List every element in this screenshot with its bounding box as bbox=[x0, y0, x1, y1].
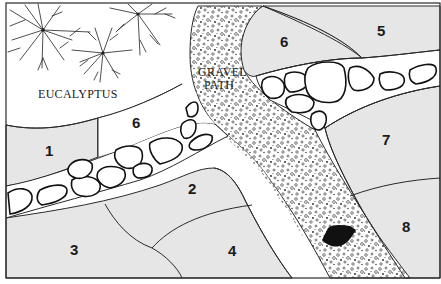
plot-label-8: 8 bbox=[402, 218, 410, 235]
eucalyptus-label: EUCALYPTUS bbox=[38, 87, 118, 101]
garden-plan-diagram: EUCALYPTUS GRAVEL PATH 1 2 3 4 5 6 6 7 8 bbox=[0, 0, 441, 284]
plot-label-4: 4 bbox=[228, 242, 237, 259]
plot-label-7: 7 bbox=[382, 131, 390, 148]
gravel-path-label-line1: GRAVEL bbox=[198, 65, 247, 79]
plot-label-6-right: 6 bbox=[280, 33, 288, 50]
plot-label-5: 5 bbox=[377, 22, 385, 39]
plot-label-1: 1 bbox=[45, 142, 53, 159]
plot-label-3: 3 bbox=[70, 241, 78, 258]
plot-label-6-left: 6 bbox=[132, 114, 140, 131]
gravel-path-label-line2: PATH bbox=[204, 78, 234, 92]
plot-label-2: 2 bbox=[188, 180, 196, 197]
